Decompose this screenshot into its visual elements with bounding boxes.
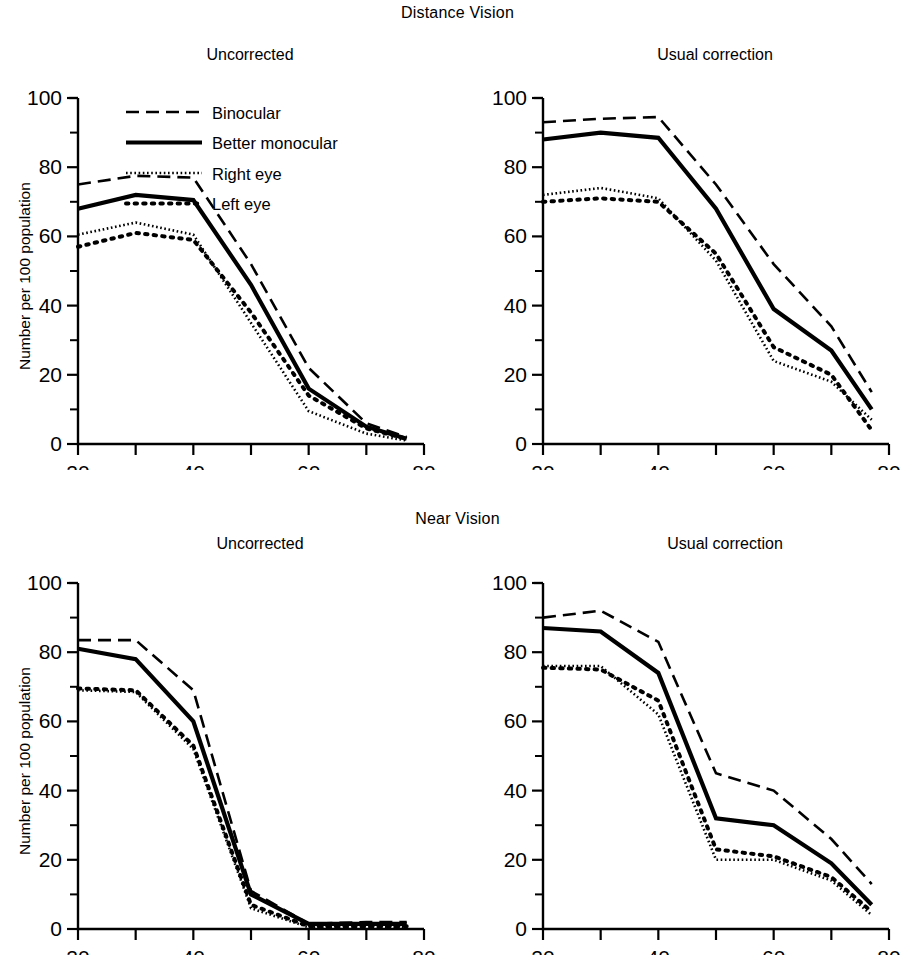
- series-line-binocular: [543, 611, 872, 884]
- x-tick-label: 40: [182, 946, 205, 955]
- distance-vision-title: Distance Vision: [0, 4, 915, 22]
- y-axis-label: Number per 100 population: [16, 182, 34, 370]
- series-distance-usual-correction: [543, 117, 872, 430]
- series-line-better-monocular: [78, 195, 407, 439]
- y-tick-label: 80: [39, 155, 62, 178]
- x-tick-label: 80: [877, 946, 900, 955]
- y-tick-label: 40: [504, 294, 527, 317]
- y-tick-label: 60: [504, 709, 527, 732]
- panel-title-near-uncorrected: Uncorrected: [0, 535, 480, 553]
- y-tick-label: 80: [504, 640, 527, 663]
- y-tick-label: 20: [504, 363, 527, 386]
- series-near-usual-correction: [543, 611, 872, 915]
- x-tick-label: 60: [762, 461, 785, 470]
- y-tick-label: 20: [504, 848, 527, 871]
- series-line-left-eye: [543, 198, 872, 430]
- y-tick-label: 80: [504, 155, 527, 178]
- x-tick-label: 20: [531, 461, 554, 470]
- y-tick-label: 40: [39, 294, 62, 317]
- y-tick-label: 100: [492, 86, 527, 109]
- series-line-right-eye: [78, 223, 407, 441]
- panel-near-uncorrected: Uncorrected Number per 100 population 02…: [0, 525, 440, 955]
- y-tick-label: 0: [50, 917, 62, 940]
- labels-distance-usual-correction: 02040608010020406080Age in years: [492, 86, 901, 470]
- vision-prevalence-figure: Distance Vision Near Vision Uncorrected …: [0, 0, 915, 975]
- panel-near-usual-correction: Usual correction 02040608010020406080Age…: [465, 525, 905, 955]
- y-tick-label: 20: [39, 848, 62, 871]
- axes-near-usual-correction: [532, 583, 889, 940]
- y-tick-label: 60: [504, 224, 527, 247]
- plot-distance-usual-correction: 02040608010020406080Age in years: [465, 40, 905, 470]
- y-tick-label: 40: [39, 779, 62, 802]
- x-tick-label: 40: [182, 461, 205, 470]
- x-tick-label: 40: [647, 946, 670, 955]
- y-tick-label: 100: [27, 86, 62, 109]
- legend-label-better-monocular: Better monocular: [212, 134, 338, 152]
- series-line-left-eye: [543, 668, 872, 912]
- series-line-binocular: [543, 117, 872, 392]
- panel-title-near-usual-correction: Usual correction: [465, 535, 915, 553]
- series-near-uncorrected: [78, 640, 407, 927]
- y-tick-label: 80: [39, 640, 62, 663]
- legend-label-left-eye: Left eye: [212, 195, 271, 213]
- x-tick-label: 20: [66, 946, 89, 955]
- panel-distance-usual-correction: Usual correction 02040608010020406080Age…: [465, 40, 905, 470]
- plot-near-usual-correction: 02040608010020406080Age in years: [465, 525, 905, 955]
- legend-label-binocular: Binocular: [212, 104, 281, 122]
- labels-near-uncorrected: 02040608010020406080Age in years: [27, 571, 436, 955]
- y-axis-label: Number per 100 population: [16, 667, 34, 855]
- x-tick-label: 80: [877, 461, 900, 470]
- series-line-right-eye: [543, 666, 872, 915]
- y-tick-label: 0: [50, 432, 62, 455]
- panel-title-distance-usual-correction: Usual correction: [465, 46, 915, 64]
- y-tick-label: 100: [27, 571, 62, 594]
- series-line-right-eye: [543, 188, 872, 420]
- series-line-left-eye: [78, 689, 407, 927]
- x-tick-label: 80: [412, 461, 435, 470]
- series-line-right-eye: [78, 690, 407, 927]
- x-tick-label: 80: [412, 946, 435, 955]
- x-tick-label: 60: [297, 461, 320, 470]
- y-axis-label-wrap: Number per 100 population: [0, 525, 28, 955]
- axes-distance-usual-correction: [532, 98, 889, 455]
- x-tick-label: 20: [66, 461, 89, 470]
- y-tick-label: 60: [39, 709, 62, 732]
- y-tick-label: 60: [39, 224, 62, 247]
- series-distance-uncorrected: [78, 176, 407, 441]
- y-tick-label: 40: [504, 779, 527, 802]
- x-tick-label: 20: [531, 946, 554, 955]
- legend-label-right-eye: Right eye: [212, 165, 282, 183]
- y-tick-label: 0: [515, 432, 527, 455]
- y-tick-label: 0: [515, 917, 527, 940]
- y-tick-label: 20: [39, 363, 62, 386]
- y-tick-label: 100: [492, 571, 527, 594]
- series-line-better-monocular: [543, 628, 872, 905]
- plot-near-uncorrected: 02040608010020406080Age in years: [0, 525, 440, 955]
- x-tick-label: 60: [297, 946, 320, 955]
- panel-title-distance-uncorrected: Uncorrected: [0, 46, 470, 64]
- series-line-left-eye: [78, 233, 407, 439]
- panel-distance-uncorrected: Uncorrected Number per 100 population Bi…: [0, 40, 440, 470]
- plot-distance-uncorrected: BinocularBetter monocularRight eyeLeft e…: [0, 40, 440, 470]
- x-tick-label: 40: [647, 461, 670, 470]
- x-tick-label: 60: [762, 946, 785, 955]
- y-axis-label-wrap: Number per 100 population: [0, 40, 28, 470]
- series-line-binocular: [78, 176, 407, 437]
